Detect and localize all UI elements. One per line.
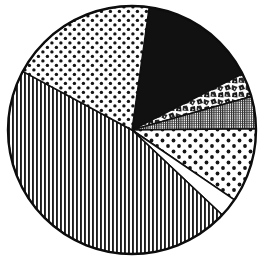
pie-chart-figure: [0, 0, 271, 265]
pie-slices-group: [8, 6, 256, 254]
pie-chart-canvas: [0, 0, 271, 265]
